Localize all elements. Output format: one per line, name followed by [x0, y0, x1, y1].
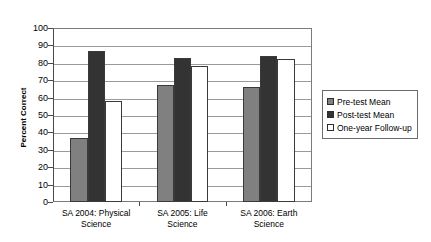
y-axis-tick-label: 30: [20, 145, 48, 154]
legend-swatch-icon: [327, 111, 334, 118]
y-axis-tick-mark: [48, 98, 53, 99]
legend-item: Post-test Mean: [327, 108, 412, 121]
y-axis-tick-mark: [48, 150, 53, 151]
legend-item-label: One-year Follow-up: [337, 123, 412, 133]
legend-item-label: Post-test Mean: [337, 110, 394, 120]
y-axis-tick-mark: [48, 132, 53, 133]
bar: [174, 58, 191, 202]
x-axis-category-label: SA 2006: Earth Science: [226, 208, 312, 230]
bar: [88, 51, 105, 202]
bar: [243, 87, 260, 202]
x-axis-category-label: SA 2004: Physical Science: [53, 208, 139, 230]
legend-item-label: Pre-test Mean: [337, 97, 390, 107]
y-axis-tick-label: 100: [20, 24, 48, 33]
y-axis-tick-label: 80: [20, 58, 48, 67]
y-axis-tick-mark: [48, 63, 53, 64]
x-axis-tick-mark: [226, 202, 227, 206]
legend-swatch-icon: [327, 124, 334, 131]
bar: [260, 56, 277, 202]
x-axis-tick-mark: [139, 202, 140, 206]
y-axis-tick-mark: [48, 167, 53, 168]
y-axis-tick-label: 40: [20, 128, 48, 137]
y-axis-tick-mark: [48, 28, 53, 29]
chart-legend: Pre-test MeanPost-test MeanOne-year Foll…: [322, 90, 418, 139]
bar: [105, 101, 122, 202]
y-axis-tick-mark: [48, 80, 53, 81]
bars-layer: [53, 28, 312, 202]
bar: [157, 85, 174, 202]
y-axis-tick-mark: [48, 115, 53, 116]
bar: [70, 138, 87, 202]
legend-item: Pre-test Mean: [327, 95, 412, 108]
y-axis-tick-label: 50: [20, 111, 48, 120]
y-axis-tick-label: 60: [20, 93, 48, 102]
legend-swatch-icon: [327, 98, 334, 105]
y-axis-tick-label: 10: [20, 180, 48, 189]
x-axis-category-label: SA 2005: Life Science: [139, 208, 225, 230]
y-axis-tick-label: 0: [20, 198, 48, 207]
y-axis-tick-label: 90: [20, 41, 48, 50]
y-axis-tick-mark: [48, 45, 53, 46]
bar: [277, 59, 294, 202]
y-axis-tick-label: 20: [20, 163, 48, 172]
y-axis-tick-mark: [48, 202, 53, 203]
y-axis-tick-mark: [48, 185, 53, 186]
bar: [191, 66, 208, 202]
bar-chart: Percent Correct 0102030405060708090100 P…: [0, 0, 431, 242]
y-axis-tick-labels: 0102030405060708090100: [20, 23, 48, 203]
legend-item: One-year Follow-up: [327, 121, 412, 134]
y-axis-tick-label: 70: [20, 76, 48, 85]
